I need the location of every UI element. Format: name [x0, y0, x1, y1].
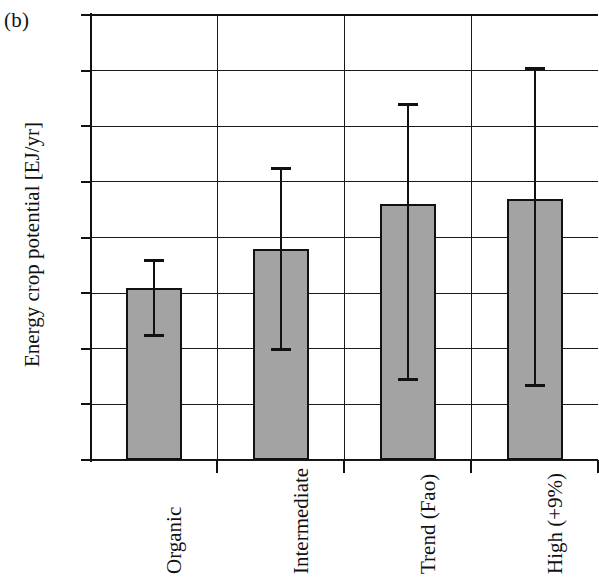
- error-bar-line: [534, 68, 536, 385]
- y-tick-mark: [81, 181, 90, 183]
- error-bar-line: [280, 168, 282, 349]
- y-tick-mark: [81, 348, 90, 350]
- x-tick-label: High (+9%): [543, 473, 568, 574]
- y-tick-mark: [81, 403, 90, 405]
- y-axis-title-text: Energy crop potential [EJ/yr]: [20, 122, 44, 367]
- x-tick-mark: [216, 460, 218, 473]
- x-tick-label-container: High (+9%): [543, 470, 544, 578]
- error-bar-cap-upper: [525, 67, 545, 70]
- x-tick-label: Trend (Fao): [416, 474, 441, 574]
- y-tick-mark: [81, 14, 90, 16]
- error-bar-cap-upper: [271, 167, 291, 170]
- error-bar-cap-upper: [398, 103, 418, 106]
- error-bar-line: [407, 104, 409, 379]
- x-tick-label-container: Organic: [162, 470, 163, 578]
- y-tick-mark: [81, 459, 90, 461]
- error-bar-cap-lower: [144, 334, 164, 337]
- error-bar-cap-upper: [144, 259, 164, 262]
- category-separator: [471, 15, 472, 460]
- x-tick-label: Organic: [162, 507, 187, 574]
- y-axis-title: Energy crop potential [EJ/yr]: [20, 45, 45, 445]
- category-separator: [344, 15, 345, 460]
- error-bar-line: [153, 260, 155, 335]
- error-bar-cap-lower: [398, 378, 418, 381]
- x-tick-label-container: Trend (Fao): [416, 470, 417, 578]
- error-bar-cap-lower: [271, 348, 291, 351]
- category-separator: [217, 15, 218, 460]
- x-tick-label-container: Intermediate: [289, 470, 290, 578]
- plot-area: [90, 15, 598, 460]
- panel-label: (b): [4, 8, 29, 33]
- y-tick-mark: [81, 237, 90, 239]
- x-tick-mark: [343, 460, 345, 473]
- y-tick-mark: [81, 125, 90, 127]
- y-tick-mark: [81, 292, 90, 294]
- error-bar-cap-lower: [525, 384, 545, 387]
- x-tick-label: Intermediate: [289, 468, 314, 574]
- y-tick-mark: [81, 70, 90, 72]
- x-tick-mark: [470, 460, 472, 473]
